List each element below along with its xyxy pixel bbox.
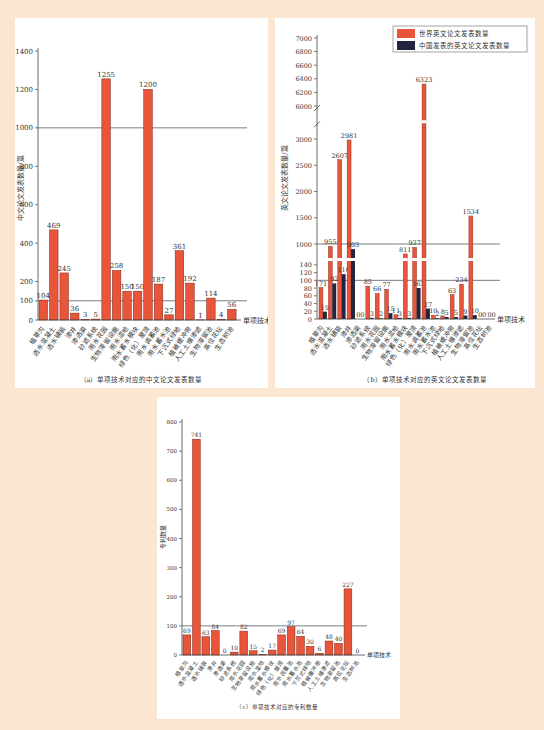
bar-value-label: 0 — [360, 311, 364, 319]
bar-value-label: 0 — [355, 647, 359, 654]
bar-value-label: 150 — [131, 283, 144, 291]
bar — [344, 589, 352, 655]
y-tick-label: 3000 — [295, 136, 312, 144]
bar-break-gap — [403, 258, 408, 261]
y-tick-label: 6000 — [295, 103, 312, 111]
y-tick-label: 200 — [20, 278, 33, 286]
bar-value-label: 903 — [347, 241, 359, 249]
bar-break-gap — [328, 258, 333, 261]
bar-value-label: 15 — [249, 643, 257, 650]
bar-break-gap — [422, 258, 427, 261]
bar-world — [422, 84, 426, 319]
y-tick-label: 100 — [300, 277, 312, 285]
bar-break-gap — [468, 258, 473, 261]
bar — [240, 631, 248, 655]
bar — [249, 651, 257, 655]
bar-china — [323, 312, 327, 319]
bar-value-label: 77 — [382, 281, 390, 289]
y-axis-title: 专利数量 — [159, 525, 167, 549]
bar-value-label: 3 — [83, 311, 87, 319]
bar-value-label: 104 — [37, 292, 51, 300]
bar — [211, 631, 219, 655]
bar-china — [463, 316, 467, 319]
bar-break-gap — [337, 258, 342, 261]
bar-value-label: 3 — [407, 310, 411, 318]
legend-swatch-world — [397, 29, 415, 38]
bar-value-label: 3 — [370, 310, 374, 318]
bar-value-label: 69 — [183, 627, 191, 634]
bar-china — [332, 283, 336, 319]
bar-value-label: 1255 — [97, 71, 115, 79]
bar-value-label: 92 — [330, 275, 338, 283]
bar — [278, 635, 286, 655]
bar-value-label: 69 — [278, 627, 286, 634]
bar — [165, 315, 174, 320]
bar-value-label: 2607 — [331, 152, 348, 160]
y-tick-label: 400 — [20, 240, 33, 248]
bar — [207, 298, 216, 320]
x-axis-title: 单项技术 — [243, 316, 268, 325]
bar-world — [347, 140, 351, 319]
bar-value-label: 234 — [455, 276, 467, 284]
x-axis-title: 单项技术 — [497, 315, 525, 324]
x-axis-title: 单项技术 — [367, 651, 391, 659]
bar-value-label: 63 — [448, 287, 456, 295]
panel-chinese-papers: 0100200400600800100012001400104469245363… — [15, 18, 268, 388]
chart-c-patents: 0100200300400500600700800697416384010821… — [157, 397, 400, 719]
legend-label-world: 世界英文论文发表数量 — [419, 29, 489, 38]
y-tick-label: 7000 — [295, 35, 312, 43]
bar-value-label: 56 — [227, 301, 236, 309]
y-tick-label: 140 — [300, 261, 312, 269]
chart-b-english-papers: 0204060801001201401000150020002500300060… — [275, 18, 535, 388]
bar-value-label: 361 — [173, 243, 186, 251]
y-tick-label: 2500 — [295, 162, 312, 170]
y-tick-label: 6600 — [295, 62, 312, 70]
bar-value-label: 66 — [373, 285, 381, 293]
bar — [287, 627, 295, 655]
bar-break-gap — [459, 258, 464, 261]
y-tick-label: 6200 — [295, 89, 312, 97]
bar-value-label: 937 — [408, 239, 420, 247]
bar-world — [469, 216, 473, 319]
bar — [335, 643, 343, 655]
bar — [230, 652, 238, 655]
bar — [70, 313, 79, 320]
chart-caption: （a）单项技术对应的中文论文发表数量 — [80, 375, 203, 384]
chart-caption: （b）单项技术对应的英文论文发表数量 — [363, 375, 486, 384]
bar-value-label: 2981 — [341, 132, 358, 140]
bar-value-label: 3 — [398, 310, 402, 318]
bar-value-label: 48 — [325, 633, 333, 640]
y-tick-label: 100 — [167, 623, 178, 629]
y-tick-label: 6400 — [295, 75, 312, 83]
y-tick-label: 800 — [167, 419, 178, 425]
bar — [102, 79, 111, 320]
bar — [39, 300, 48, 320]
bar — [186, 283, 195, 320]
bar-world — [338, 160, 342, 319]
bar-value-label: 245 — [58, 265, 71, 273]
bar — [49, 230, 58, 320]
bar-value-label: 1534 — [463, 208, 480, 216]
y-tick-label: 40 — [304, 300, 312, 308]
y-tick-label: 2000 — [295, 188, 312, 196]
bar — [175, 251, 184, 320]
bar — [144, 89, 153, 320]
y-tick-label: 80 — [304, 285, 312, 293]
y-tick-label: 500 — [167, 506, 178, 512]
y-tick-label: 1200 — [15, 86, 33, 94]
bar-value-label: 9 — [463, 308, 467, 316]
y-tick-label: 1400 — [15, 48, 33, 56]
bar — [192, 439, 200, 655]
bar-value-label: 0 — [482, 311, 486, 319]
bar-value-label: 5 — [454, 309, 458, 317]
bar — [306, 646, 314, 655]
bar-value-label: 0 — [223, 647, 227, 654]
bar — [133, 291, 142, 320]
bar-value-label: 192 — [183, 275, 196, 283]
bar-value-label: 85 — [364, 278, 372, 286]
bar-value-label: 10 — [230, 644, 238, 651]
bar-value-label: 1 — [198, 312, 202, 320]
bar-value-label: 258 — [110, 262, 123, 270]
bar — [123, 291, 132, 320]
bar-break-gap — [319, 258, 324, 261]
